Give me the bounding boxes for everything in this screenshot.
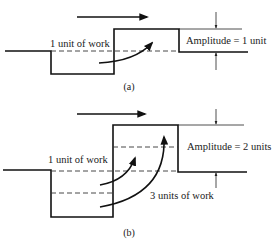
amplitude-label: Amplitude = 1 unit — [186, 35, 266, 46]
work-label-small: 1 unit of work — [48, 154, 109, 165]
panel-b: 1 unit of work Amplitude = 2 units 3 uni… — [3, 109, 271, 239]
amplitude-label: Amplitude = 2 units — [187, 141, 271, 152]
work-label: 1 unit of work — [50, 38, 111, 49]
caption-a: (a) — [123, 81, 134, 93]
wave-work-diagram: 1 unit of work Amplitude = 1 unit (a) 1 … — [0, 0, 274, 240]
caption-b: (b) — [123, 227, 135, 239]
work-label-large: 3 units of work — [150, 190, 215, 201]
panel-a: 1 unit of work Amplitude = 1 unit (a) — [5, 12, 266, 93]
